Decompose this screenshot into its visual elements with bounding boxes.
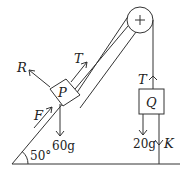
force-20g-label: 20g — [133, 137, 156, 151]
block-p: P — [50, 79, 80, 106]
angle-arc — [22, 152, 28, 164]
force-k-label: K — [163, 136, 175, 151]
force-f-label: F — [33, 108, 44, 123]
force-t-p-label: T — [74, 51, 84, 66]
pulley — [127, 7, 153, 33]
force-r-label: R — [16, 60, 27, 75]
force-r-line — [29, 70, 50, 87]
rope-lower — [80, 32, 136, 108]
force-60g-label: 60g — [52, 139, 75, 153]
force-t-q-label: T — [138, 72, 148, 87]
angle-label: 50° — [30, 149, 51, 163]
pulley-incline-diagram: 50° P R T F 60g T Q 20g K — [0, 0, 186, 188]
block-p-label: P — [57, 85, 67, 100]
block-q-label: Q — [146, 95, 157, 110]
block-q: Q — [139, 89, 164, 114]
